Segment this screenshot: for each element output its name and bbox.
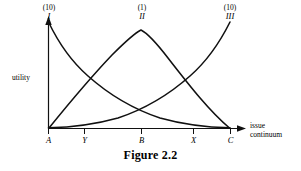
curve-iii-id: III xyxy=(215,12,245,21)
curve-label-iii: (10) III xyxy=(215,4,245,21)
x-tick-label-x: X xyxy=(186,136,202,145)
plot-canvas xyxy=(0,0,301,171)
curve-label-i: (10) I xyxy=(34,4,64,21)
x-axis-arrowhead xyxy=(237,125,246,131)
curve-i xyxy=(49,22,231,128)
x-tick-label-c: C xyxy=(223,136,239,145)
x-axis-label-line2: continuum xyxy=(250,130,282,139)
curve-ii-id: II xyxy=(127,12,157,21)
x-tick-label-a: A xyxy=(41,136,57,145)
figure-2-2: (10) I (1) II (10) III A Y B X C utility… xyxy=(0,0,301,171)
curve-label-ii: (1) II xyxy=(127,4,157,21)
x-axis-label-line1: issue xyxy=(250,121,282,130)
x-axis-label: issue continuum xyxy=(250,121,282,140)
curve-iii xyxy=(49,22,231,128)
x-tick-label-b: B xyxy=(134,136,150,145)
x-tick-label-y: Y xyxy=(77,136,93,145)
figure-caption: Figure 2.2 xyxy=(0,148,301,163)
y-axis-label: utility xyxy=(12,73,30,82)
curve-i-id: I xyxy=(34,12,64,21)
curve-ii xyxy=(49,30,230,128)
